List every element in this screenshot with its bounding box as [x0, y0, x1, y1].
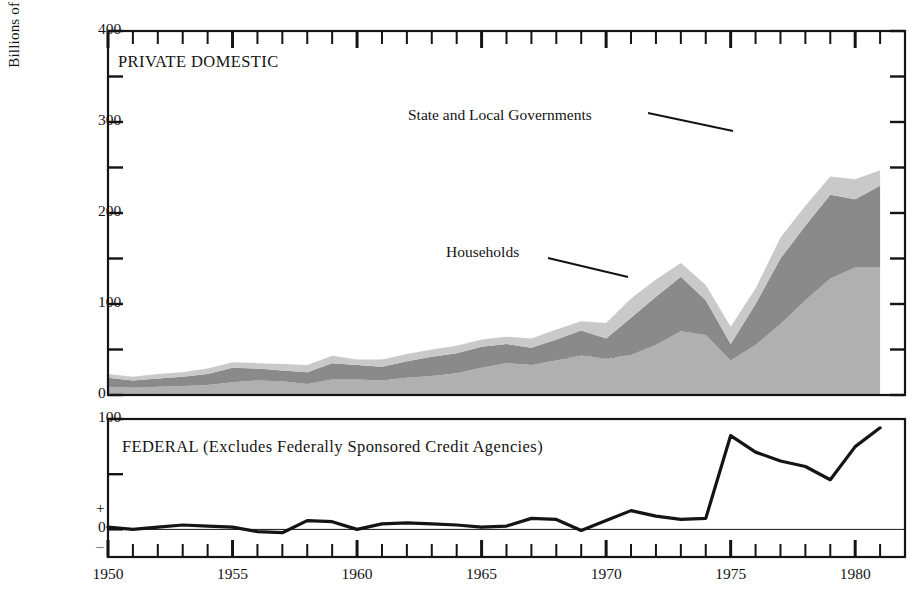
x-tick-label-1980: 1980	[840, 565, 871, 583]
x-tick-label-1955: 1955	[217, 565, 248, 583]
chart-canvas	[0, 0, 922, 608]
federal-line-group	[108, 428, 905, 533]
bottom-panel-frame	[108, 419, 905, 557]
leader-line-households	[548, 258, 628, 277]
annotation-leader-lines-group	[548, 113, 733, 277]
leader-line-state-and-local-governments	[648, 113, 733, 131]
x-tick-label-1975: 1975	[715, 565, 746, 583]
x-tick-label-1965: 1965	[466, 565, 497, 583]
x-tick-label-1960: 1960	[342, 565, 373, 583]
figure-root: Billions of Dollars PRIVATE DOMESTIC FED…	[0, 0, 922, 608]
stacked-areas-group	[108, 170, 880, 395]
x-tick-label-1950: 1950	[93, 565, 124, 583]
x-tick-label-1970: 1970	[591, 565, 622, 583]
federal-borrowing-line	[108, 428, 880, 533]
